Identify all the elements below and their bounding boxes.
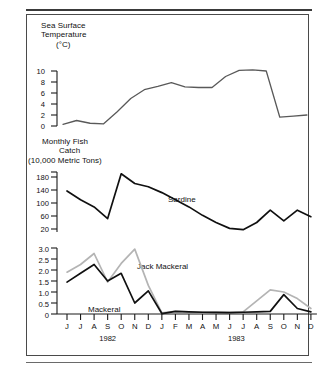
month-label-10: A — [197, 323, 209, 331]
sardine-plot-area — [51, 170, 326, 240]
year-label-1983: 1983 — [222, 335, 250, 343]
temperature-tick-8: 8 — [26, 79, 45, 87]
month-label-0: J — [61, 323, 73, 331]
month-label-13: J — [237, 323, 249, 331]
month-label-4: O — [115, 323, 127, 331]
small-tick-3-0: 3.0 — [26, 246, 49, 254]
catch-tick-180: 180 — [26, 174, 49, 182]
catch-y-axis — [51, 172, 57, 232]
sardine-data-line — [67, 174, 311, 230]
small-tick-0: 0 — [26, 312, 49, 320]
mackerel-plot-area — [51, 245, 326, 325]
catch-title-line3: (10,000 Metric Tons) — [28, 156, 102, 165]
year-label-1982: 1982 — [94, 335, 122, 343]
month-label-1: J — [75, 323, 87, 331]
catch-tick-100: 100 — [26, 200, 49, 208]
small-pelagics-y-axis — [51, 248, 57, 314]
catch-tick-60: 60 — [26, 213, 49, 221]
month-label-2: A — [88, 323, 100, 331]
month-label-5: N — [129, 323, 141, 331]
month-label-9: M — [183, 323, 195, 331]
temperature-tick-2: 2 — [26, 112, 45, 120]
temperature-title-line1: Sea Surface — [41, 21, 86, 30]
temperature-tick-0: 0 — [26, 123, 45, 131]
month-axis-ticks — [57, 314, 317, 320]
catch-title-line2: Catch — [59, 146, 80, 155]
small-tick-1-5: 1.5 — [26, 279, 49, 287]
catch-title-line1: Monthly Fish — [42, 137, 88, 146]
month-label-12: J — [224, 323, 236, 331]
temperature-tick-10: 10 — [26, 68, 45, 76]
temperature-tick-4: 4 — [26, 101, 45, 109]
small-tick-2-5: 2.5 — [26, 257, 49, 265]
month-label-8: F — [169, 323, 181, 331]
bottom-rule-divider — [26, 362, 312, 363]
month-label-11: M — [210, 323, 222, 331]
month-label-7: J — [156, 323, 168, 331]
month-label-16: O — [278, 323, 290, 331]
month-label-3: S — [102, 323, 114, 331]
small-tick-0-5: 0.5 — [26, 301, 49, 309]
month-label-14: A — [251, 323, 263, 331]
month-label-17: N — [291, 323, 303, 331]
month-label-15: S — [264, 323, 276, 331]
temperature-title-line3: (°C) — [56, 40, 71, 49]
catch-tick-140: 140 — [26, 187, 49, 195]
small-tick-1-0: 1.0 — [26, 290, 49, 298]
small-tick-2-0: 2.0 — [26, 268, 49, 276]
temperature-tick-6: 6 — [26, 90, 45, 98]
figure-root: Sea Surface Temperature (°C) 0 2 4 6 8 1… — [0, 0, 329, 371]
temperature-title-line2: Temperature — [41, 30, 86, 39]
top-rule-divider — [26, 9, 312, 11]
temperature-y-axis — [51, 71, 57, 126]
month-label-6: D — [142, 323, 154, 331]
jack-mackerel-data-line — [67, 249, 311, 313]
month-label-18: D — [305, 323, 317, 331]
temperature-data-line — [63, 70, 307, 124]
catch-tick-20: 20 — [26, 226, 49, 234]
temperature-plot-area — [47, 66, 322, 146]
